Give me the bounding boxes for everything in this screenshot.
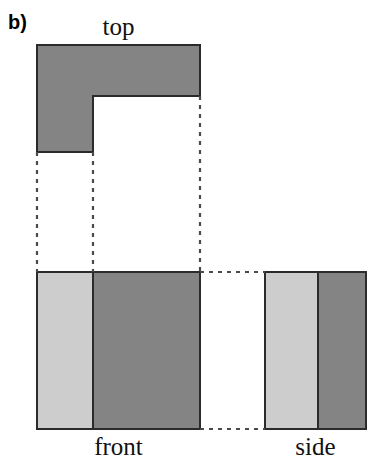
top-view-shape (37, 45, 200, 152)
front-view-left-region (37, 272, 93, 429)
figure-canvas: b) top front side (0, 0, 387, 473)
side-view-left-region (265, 272, 318, 429)
front-view-right-region (93, 272, 200, 429)
front-view-label: front (20, 434, 217, 459)
side-view-label: side (246, 434, 385, 459)
side-view-right-region (318, 272, 366, 429)
orthographic-projection-svg (0, 0, 387, 473)
